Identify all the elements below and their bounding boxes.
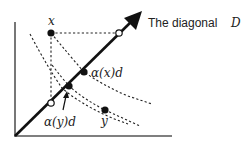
point-y-label: y xyxy=(100,114,108,128)
alpha-y-pointer-arrowhead-icon xyxy=(63,91,69,98)
alpha-y-label: α(y)d xyxy=(44,115,76,129)
diagonal-min-point xyxy=(48,100,54,106)
alpha-y-pointer xyxy=(63,96,66,110)
alpha-x-label: α(x)d xyxy=(91,66,123,80)
diagonal-caption: The diagonal xyxy=(148,16,217,30)
diagonal-max-point xyxy=(116,30,122,36)
point-x xyxy=(47,29,54,36)
point-x-label: x xyxy=(48,14,55,28)
diagonal-diagram: x y α(x)d α(y)d The diagonal D xyxy=(0,0,252,150)
point-y xyxy=(101,106,108,113)
point-alpha-y-d xyxy=(65,82,72,89)
point-alpha-x-d xyxy=(80,68,87,75)
diagonal-symbol: D xyxy=(230,16,241,30)
